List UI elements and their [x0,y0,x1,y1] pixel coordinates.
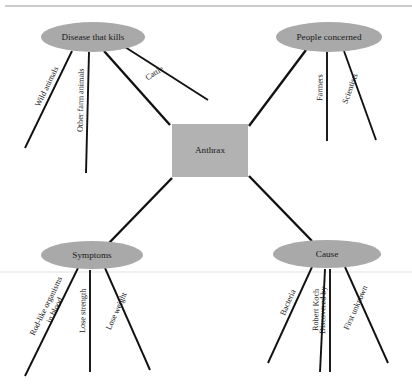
node-cause[interactable]: Cause [273,240,381,268]
connector-disease-to-center [104,51,170,125]
node-label-people: People concerned [296,32,361,42]
branch-label-cause-3: Discovered by [318,285,328,334]
branch-label-text: Cattle [144,64,166,82]
branch-label-disease-1: Other farm animals [76,68,86,132]
branch-label-text: Lose strength [78,289,88,333]
connector-symptoms-to-center [109,178,172,243]
branch-label-symptoms-1: Rod-like organismsin blood [28,275,73,341]
diagram-canvas: Disease that killsPeople concernedSympto… [0,0,412,391]
branch-line-cause-1 [268,267,312,363]
branch-label-people-1: Farmers [315,74,324,101]
center-node-label: Anthrax [195,145,226,155]
branch-line-disease-1 [86,52,89,173]
node-label-disease: Disease that kills [62,32,125,42]
branch-line-disease-3 [125,47,208,100]
anthrax-mind-map: Disease that killsPeople concernedSympto… [0,0,412,391]
branch-label-text: Farmers [315,74,324,101]
branch-label-text: Discovered by [318,285,328,334]
center-node[interactable]: Anthrax [172,124,248,177]
branch-line-disease-0 [25,51,72,148]
node-label-symptoms: Symptoms [72,250,112,260]
edge-labels-layer: Wild animalsOther farm animalsCattleFarm… [28,64,369,341]
connector-cause-to-center [249,176,312,241]
branch-label-symptoms-2: Lose strength [78,289,88,333]
branch-label-disease-3: Cattle [144,64,166,82]
node-label-cause: Cause [316,249,338,259]
connector-people-to-center [249,50,306,126]
node-disease[interactable]: Disease that kills [41,22,145,52]
branch-label-text: Other farm animals [76,68,86,132]
node-people[interactable]: People concerned [276,22,382,52]
node-symptoms[interactable]: Symptoms [41,241,143,269]
